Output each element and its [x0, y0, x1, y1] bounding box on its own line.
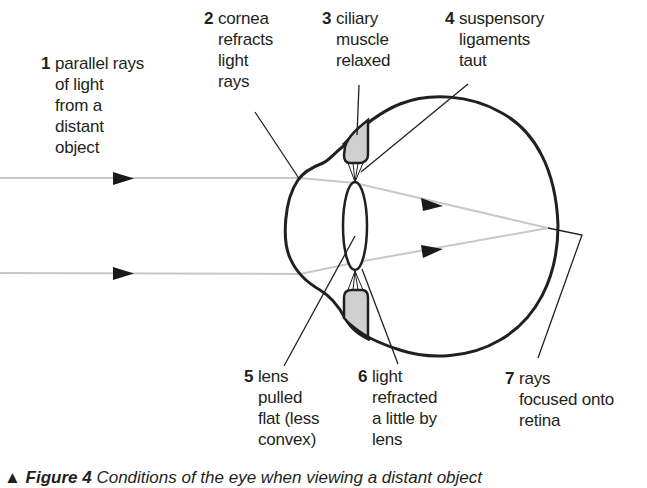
label-number: 5 [244, 366, 253, 387]
label-number: 1 [41, 53, 50, 74]
label-number: 6 [358, 366, 367, 387]
leader-4 [361, 84, 468, 172]
label-number: 4 [445, 8, 454, 29]
label-number: 3 [322, 8, 331, 29]
figure-number: Figure 4 [26, 468, 92, 487]
ciliary-muscle-top [344, 120, 368, 163]
ciliary-muscle-bottom [344, 290, 368, 337]
arrow-icon [113, 267, 134, 280]
figure-caption: ▲ Figure 4 Conditions of the eye when vi… [4, 468, 482, 488]
label-cornea: 2 cornea refracts light rays [218, 8, 273, 92]
triangle-marker-icon: ▲ [4, 468, 21, 487]
leader-2 [255, 112, 300, 180]
lower-ray [0, 228, 548, 274]
sclera-outline [343, 97, 558, 356]
caption-text: Conditions of the eye when viewing a dis… [96, 468, 482, 487]
label-ciliary-muscle: 3 ciliary muscle relaxed [336, 8, 390, 71]
label-number: 2 [204, 8, 213, 29]
light-rays [0, 178, 548, 274]
arrow-icon [113, 172, 134, 185]
upper-ray [0, 178, 548, 228]
label-parallel-rays: 1 parallel rays of light from a distant … [55, 53, 144, 158]
lens [343, 182, 367, 270]
label-lens: 5 lens pulled flat (less convex) [258, 366, 319, 450]
label-light-refracted: 6 light refracted a little by lens [372, 366, 437, 450]
ray-arrows [113, 172, 443, 280]
label-rays-focused: 7 rays focused onto retina [519, 368, 614, 431]
eyeball [285, 97, 558, 356]
label-suspensory-ligaments: 4 suspensory ligaments taut [459, 8, 544, 71]
label-number: 7 [505, 368, 514, 389]
